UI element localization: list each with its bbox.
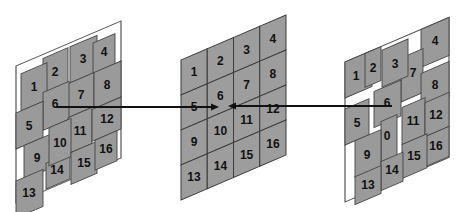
svg-text:9: 9 (364, 148, 371, 162)
right-panel: 1 2 4 7 3 8 6 5 11 12 0 9 16 15 14 13 (345, 17, 449, 209)
svg-text:10: 10 (214, 124, 228, 138)
svg-text:12: 12 (429, 108, 443, 122)
svg-text:8: 8 (270, 67, 277, 81)
svg-text:15: 15 (77, 156, 91, 170)
svg-text:13: 13 (22, 186, 36, 200)
svg-text:14: 14 (50, 163, 64, 177)
svg-text:13: 13 (187, 170, 201, 184)
svg-text:0: 0 (384, 129, 391, 143)
svg-text:16: 16 (266, 137, 280, 151)
right-tile-2: 2 (365, 47, 381, 88)
svg-text:14: 14 (214, 159, 228, 173)
svg-text:3: 3 (243, 43, 250, 57)
svg-text:9: 9 (34, 151, 41, 165)
svg-text:12: 12 (100, 112, 114, 126)
svg-text:1: 1 (31, 80, 38, 94)
svg-text:2: 2 (52, 65, 59, 79)
svg-text:11: 11 (74, 124, 87, 138)
svg-text:14: 14 (385, 163, 399, 177)
svg-text:7: 7 (78, 88, 85, 102)
svg-text:4: 4 (270, 32, 277, 46)
diagram-canvas: 2 3 4 1 7 8 6 5 11 12 9 14 10 15 16 13 1… (0, 0, 459, 212)
svg-text:12: 12 (266, 102, 280, 116)
svg-text:3: 3 (80, 52, 87, 66)
svg-text:5: 5 (26, 119, 33, 133)
svg-text:2: 2 (217, 54, 224, 68)
svg-text:3: 3 (392, 57, 399, 71)
svg-text:15: 15 (407, 149, 421, 163)
svg-text:2: 2 (370, 61, 377, 75)
svg-text:13: 13 (361, 178, 375, 192)
svg-text:5: 5 (354, 116, 361, 130)
svg-text:1: 1 (191, 65, 198, 79)
svg-text:6: 6 (52, 97, 59, 111)
svg-text:7: 7 (410, 66, 417, 80)
svg-text:16: 16 (429, 139, 443, 153)
svg-text:11: 11 (240, 113, 253, 127)
svg-text:6: 6 (384, 96, 391, 110)
svg-text:8: 8 (432, 78, 439, 92)
svg-text:9: 9 (191, 135, 198, 149)
svg-text:10: 10 (53, 136, 67, 150)
svg-text:6: 6 (217, 89, 224, 103)
svg-text:7: 7 (243, 78, 250, 92)
svg-text:15: 15 (240, 148, 254, 162)
svg-text:4: 4 (432, 34, 439, 48)
left-panel: 2 3 4 1 7 8 6 5 11 12 9 14 10 15 16 13 (16, 21, 121, 212)
svg-text:1: 1 (353, 69, 360, 83)
svg-text:8: 8 (104, 78, 111, 92)
svg-text:4: 4 (101, 45, 108, 59)
svg-text:16: 16 (99, 142, 113, 156)
svg-text:11: 11 (407, 114, 420, 128)
